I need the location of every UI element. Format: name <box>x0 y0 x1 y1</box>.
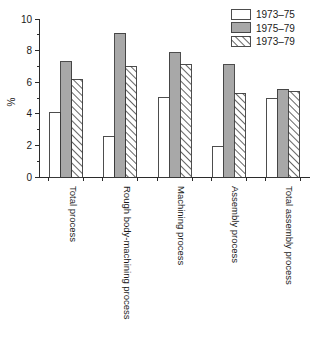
bar <box>212 147 223 177</box>
x-axis <box>39 177 310 181</box>
bar <box>266 98 277 177</box>
bar <box>288 92 299 177</box>
bar <box>277 89 288 177</box>
category-label: Total assembly process <box>284 186 295 285</box>
legend-swatch <box>231 23 250 33</box>
legend-label: 1973–79 <box>256 36 295 47</box>
category-label: Total process <box>68 186 79 242</box>
y-tick-label: 2 <box>26 140 32 151</box>
bar <box>126 66 137 177</box>
bar <box>223 65 234 177</box>
bar <box>50 112 61 177</box>
y-tick-label: 4 <box>26 108 32 119</box>
bar-chart: 0246810 Total processRough body-machinin… <box>0 0 322 345</box>
y-tick-label: 10 <box>21 14 33 25</box>
bar <box>234 93 245 177</box>
legend-label: 1975–79 <box>256 23 295 34</box>
legend-swatch <box>231 9 250 19</box>
category-label: Rough body-machining process <box>122 186 133 320</box>
category-labels: Total processRough body-machining proces… <box>68 186 296 320</box>
bars-layer <box>50 33 300 177</box>
legend-label: 1973–75 <box>256 9 295 20</box>
bar <box>72 79 83 177</box>
y-axis: 0246810 <box>21 14 39 183</box>
bar <box>169 53 180 177</box>
category-label: Machining process <box>176 186 187 265</box>
bar <box>180 65 191 177</box>
bar <box>158 97 169 177</box>
bar <box>115 33 126 177</box>
bar <box>104 137 115 177</box>
y-tick-label: 0 <box>26 172 32 183</box>
y-tick-label: 8 <box>26 45 32 56</box>
category-label: Assembly process <box>230 186 241 263</box>
y-tick-label: 6 <box>26 77 32 88</box>
bar <box>61 62 72 177</box>
legend-swatch <box>231 36 250 46</box>
legend: 1973–751975–791973–79 <box>231 9 295 47</box>
y-axis-title: % <box>6 97 17 106</box>
chart-canvas: 0246810 Total processRough body-machinin… <box>0 0 322 345</box>
